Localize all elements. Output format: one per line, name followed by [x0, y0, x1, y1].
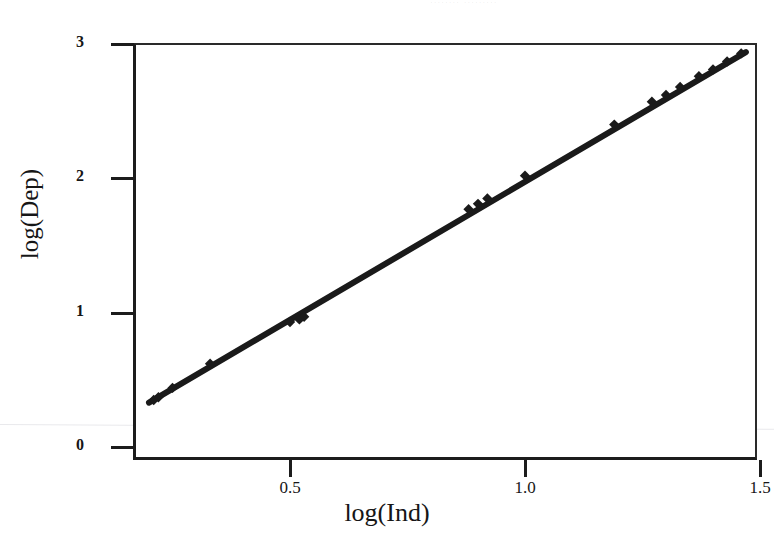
chart-title-remnant: ........ .........	[430, 0, 580, 3]
x-tick-label: 1.5	[730, 478, 774, 498]
chart-figure: ........ ......... 0123 log(Dep) 0.51.01…	[0, 0, 774, 538]
y-tick-label: 0	[58, 436, 84, 454]
x-tick-mark	[759, 460, 762, 477]
y-axis-label: log(Dep)	[16, 139, 44, 289]
y-tick-mark	[111, 312, 134, 315]
x-tick-mark	[289, 460, 292, 477]
x-tick-label: 0.5	[260, 478, 320, 498]
y-tick-mark	[111, 43, 134, 46]
x-tick-mark	[524, 460, 527, 477]
y-tick-mark	[111, 177, 134, 180]
y-tick-label: 1	[58, 302, 84, 320]
y-tick-mark	[111, 446, 134, 449]
x-axis-label: log(Ind)	[0, 498, 774, 528]
x-tick-label: 1.0	[495, 478, 555, 498]
y-tick-label: 2	[58, 167, 84, 185]
plot-area	[133, 43, 757, 460]
y-tick-label: 3	[58, 33, 84, 51]
